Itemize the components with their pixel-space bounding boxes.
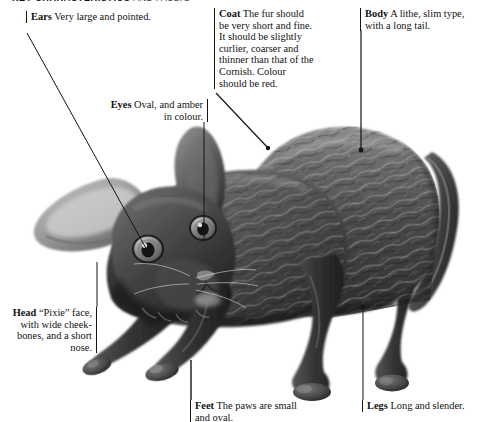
callout-term-ears: Ears: [31, 11, 52, 22]
callout-term-eyes: Eyes: [111, 99, 132, 110]
callout-ears: Ears Very large and pointed.: [26, 11, 159, 23]
callout-term-feet: Feet: [195, 400, 214, 411]
callout-term-head: Head: [13, 307, 37, 318]
callout-head: Head “Pixie” face, with wide cheek-bones…: [4, 307, 97, 353]
callout-text-ears: Very large and pointed.: [52, 11, 151, 22]
callout-eyes: Eyes Oval, and amber in colour.: [105, 99, 208, 122]
figure-page: KEY CHARACTERISTICS AND FAULTS: [0, 0, 492, 422]
callout-coat: Coat The fur should be very short and fi…: [214, 8, 315, 89]
callout-text-legs: Long and slender.: [388, 400, 465, 411]
callout-legs: Legs Long and slender.: [362, 400, 477, 412]
cat-eye-left: [133, 236, 163, 263]
callout-feet: Feet The paws are small and oval.: [190, 400, 305, 422]
callout-term-coat: Coat: [219, 8, 240, 19]
callout-text-coat: The fur should be very short and fine. I…: [219, 8, 314, 89]
callout-term-legs: Legs: [367, 400, 388, 411]
callout-text-eyes: Oval, and amber in colour.: [131, 99, 203, 122]
callout-body: Body A lithe, slim type, with a long tai…: [360, 8, 485, 31]
cat-eye-right: [190, 216, 216, 240]
callout-term-body: Body: [365, 8, 388, 19]
